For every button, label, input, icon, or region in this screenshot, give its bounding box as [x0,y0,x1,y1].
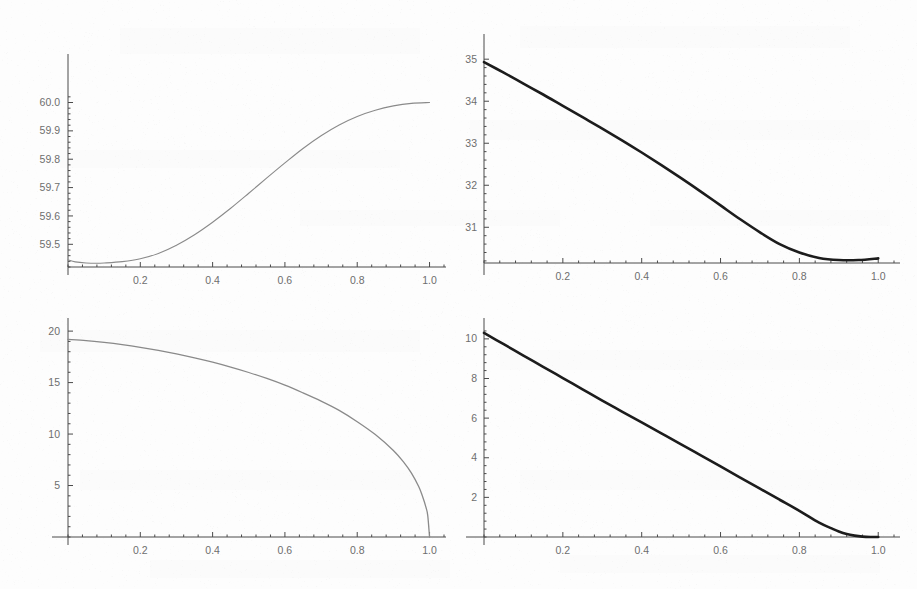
x-tick-label: 0.8 [350,274,365,286]
plot-panel-top-left: 59.559.659.759.859.960.0 0.20.40.60.81.0 [14,32,462,300]
x-tick-label: 0.4 [205,544,220,556]
y-ticklabels-top-right: 3132333435 [465,53,477,233]
y-tick-label: 59.5 [40,238,61,250]
data-curve-bottom-right [484,333,878,537]
x-tick-label: 0.4 [205,274,220,286]
x-tick-label: 1.0 [871,544,886,556]
y-tick-label: 6 [471,412,477,424]
y-ticklabels-bottom-left: 5101520 [48,325,60,491]
y-ticks-top-right [484,59,489,261]
axes-top-right [484,34,900,275]
plot-svg-top-left: 59.559.659.759.859.960.0 0.20.40.60.81.0 [14,32,462,300]
y-tick-label: 10 [465,332,477,344]
x-tick-label: 0.4 [634,270,649,282]
y-ticks-top-left [68,97,73,267]
x-tick-label: 0.8 [792,270,807,282]
plot-panel-bottom-left: 5101520 0.20.40.60.81.0 [14,310,462,582]
x-tick-label: 1.0 [422,274,437,286]
x-tick-label: 0.4 [634,544,649,556]
y-tick-label: 59.9 [40,124,61,136]
x-tick-label: 1.0 [422,544,437,556]
y-tick-label: 35 [465,53,477,65]
x-ticklabels-top-right: 0.20.40.60.81.0 [556,270,886,282]
y-tick-label: 59.7 [40,181,61,193]
x-tick-label: 0.2 [556,544,571,556]
y-tick-label: 5 [54,479,60,491]
plot-panel-top-right: 3132333435 0.20.40.60.81.0 [462,20,914,300]
data-curve-bottom-left [68,339,430,537]
y-tick-label: 4 [471,451,477,463]
y-ticks-bottom-right [484,331,489,537]
y-tick-label: 2 [471,491,477,503]
y-tick-label: 59.6 [40,210,61,222]
y-ticklabels-bottom-right: 246810 [465,332,477,503]
x-tick-label: 0.2 [133,544,148,556]
y-tick-label: 10 [48,428,60,440]
x-ticklabels-bottom-right: 0.20.40.60.81.0 [556,544,886,556]
data-curve-top-left [68,103,430,264]
x-tick-label: 0.6 [278,274,293,286]
axes-top-left [68,54,446,275]
y-tick-label: 15 [48,376,60,388]
y-tick-label: 20 [48,325,60,337]
y-tick-label: 59.8 [40,153,61,165]
plot-svg-bottom-right: 246810 0.20.40.60.81.0 [458,310,914,582]
data-curve-top-right [484,62,878,260]
y-ticks-bottom-left [68,331,73,537]
axes-bottom-right [466,318,900,545]
plot-panel-bottom-right: 246810 0.20.40.60.81.0 [458,310,914,582]
y-tick-label: 33 [465,137,477,149]
y-ticklabels-top-left: 59.559.659.759.859.960.0 [40,96,61,250]
x-ticks-bottom-right [484,532,894,537]
x-ticks-bottom-left [68,532,444,537]
x-tick-label: 1.0 [871,270,886,282]
x-tick-label: 0.6 [278,544,293,556]
x-tick-label: 0.2 [556,270,571,282]
x-tick-label: 0.2 [133,274,148,286]
x-ticklabels-top-left: 0.20.40.60.81.0 [133,274,437,286]
y-tick-label: 60.0 [40,96,61,108]
x-tick-label: 0.6 [713,544,728,556]
x-tick-label: 0.6 [713,270,728,282]
x-ticks-top-left [68,262,444,267]
plot-svg-top-right: 3132333435 0.20.40.60.81.0 [462,20,914,300]
figure-canvas: 59.559.659.759.859.960.0 0.20.40.60.81.0… [0,0,917,589]
y-tick-label: 32 [465,179,477,191]
x-ticklabels-bottom-left: 0.20.40.60.81.0 [133,544,437,556]
plot-svg-bottom-left: 5101520 0.20.40.60.81.0 [14,310,462,582]
axes-bottom-left [52,318,446,545]
y-tick-label: 31 [465,221,477,233]
y-tick-label: 8 [471,372,477,384]
y-tick-label: 34 [465,95,477,107]
x-tick-label: 0.8 [350,544,365,556]
x-tick-label: 0.8 [792,544,807,556]
